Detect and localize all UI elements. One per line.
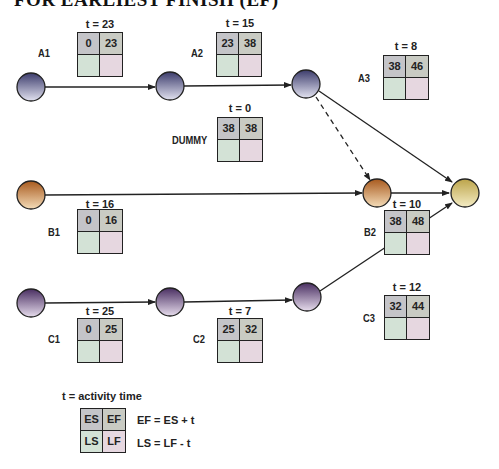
activity-label-b2: B2: [364, 226, 376, 238]
time-label-a2: t = 15: [210, 17, 270, 29]
es-cell: 38: [385, 211, 407, 233]
time-label-c3: t = 12: [377, 281, 437, 293]
node-b-start: [17, 181, 45, 209]
ls-cell: [385, 233, 407, 255]
activity-label-dummy: DUMMY: [172, 134, 207, 146]
activity-label-c3: C3: [363, 312, 375, 324]
time-label-dummy: t = 0: [210, 102, 270, 114]
lf-cell: [407, 233, 429, 255]
ef-cell: 16: [100, 210, 122, 232]
activity-label-a1: A1: [38, 47, 50, 59]
time-label-c1: t = 25: [70, 305, 130, 317]
lf-cell: [240, 341, 262, 363]
es-cell: 0: [78, 319, 100, 341]
time-label-b2: t = 10: [377, 198, 437, 210]
activity-label-a2: A2: [191, 47, 203, 59]
legend-ef-cell: EF: [103, 409, 125, 431]
activity-box-a2: 23 38: [216, 32, 262, 77]
node-c-mid: [156, 288, 184, 316]
activity-label-b1: B1: [48, 226, 60, 238]
node-a-mid: [156, 72, 184, 100]
legend-title: t = activity time: [62, 390, 142, 402]
ls-cell: [218, 341, 240, 363]
ls-cell: [384, 78, 406, 100]
edge-b1: [45, 193, 362, 195]
formula-ls: LS = LF - t: [137, 437, 190, 449]
activity-box-b2: 38 48: [384, 210, 430, 255]
activity-box-c2: 25 32: [217, 318, 263, 363]
activity-box-a3: 38 46: [383, 55, 429, 100]
node-c-end: [293, 283, 321, 311]
formula-ef: EF = ES + t: [137, 414, 194, 426]
ls-cell: [217, 55, 239, 77]
activity-label-a3: A3: [358, 72, 370, 84]
node-a-start: [17, 73, 45, 101]
ef-cell: 48: [407, 211, 429, 233]
network-diagram: FOR EARLIEST FINISH (EF): [0, 0, 499, 469]
ef-cell: 38: [240, 118, 262, 140]
activity-label-c2: C2: [193, 333, 205, 345]
ef-cell: 46: [406, 56, 428, 78]
lf-cell: [239, 55, 261, 77]
es-cell: 0: [78, 210, 100, 232]
activity-box-a1: 0 23: [77, 32, 123, 77]
lf-cell: [240, 140, 262, 162]
edge-a2: [184, 85, 291, 86]
time-label-c2: t = 7: [210, 305, 270, 317]
ef-cell: 32: [240, 319, 262, 341]
ef-cell: 38: [239, 33, 261, 55]
edge-dummy: [316, 97, 370, 180]
es-cell: 23: [217, 33, 239, 55]
time-label-a3: t = 8: [376, 40, 436, 52]
node-a-end: [292, 70, 320, 98]
es-cell: 25: [218, 319, 240, 341]
ls-cell: [78, 232, 100, 254]
node-finish: [451, 179, 479, 207]
ef-cell: 23: [100, 33, 122, 55]
ef-cell: 25: [100, 319, 122, 341]
ls-cell: [218, 140, 240, 162]
es-cell: 38: [218, 118, 240, 140]
node-c-start: [17, 289, 45, 317]
activity-label-c1: C1: [48, 333, 60, 345]
lf-cell: [100, 55, 122, 77]
activity-box-dummy: 38 38: [217, 117, 263, 162]
edge-c2: [184, 300, 292, 302]
lf-cell: [406, 78, 428, 100]
legend-ls-cell: LS: [81, 431, 103, 453]
edge-c1: [45, 302, 155, 303]
legend-es-cell: ES: [81, 409, 103, 431]
edge-a3: [319, 91, 452, 182]
ls-cell: [385, 318, 407, 340]
ls-cell: [78, 341, 100, 363]
legend-box: ES EF LS LF: [80, 408, 126, 453]
legend-lf-cell: LF: [103, 431, 125, 453]
activity-box-c1: 0 25: [77, 318, 123, 363]
es-cell: 0: [78, 33, 100, 55]
ef-cell: 44: [407, 296, 429, 318]
time-label-a1: t = 23: [70, 18, 130, 30]
activity-box-c3: 32 44: [384, 295, 430, 340]
ls-cell: [78, 55, 100, 77]
es-cell: 38: [384, 56, 406, 78]
es-cell: 32: [385, 296, 407, 318]
lf-cell: [100, 232, 122, 254]
activity-box-b1: 0 16: [77, 209, 123, 254]
lf-cell: [407, 318, 429, 340]
lf-cell: [100, 341, 122, 363]
